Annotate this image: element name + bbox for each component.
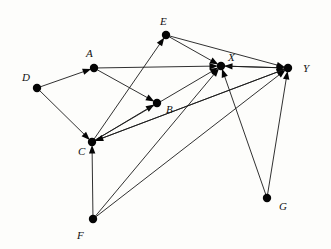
arrowhead-icon [82, 69, 91, 75]
node-label-g: G [279, 201, 287, 212]
graph-edge-f-y [96, 70, 286, 217]
graph-edge-c-e [94, 37, 164, 139]
graph-node-g[interactable] [263, 194, 271, 202]
nodes-layer [33, 31, 292, 223]
graph-node-x[interactable] [217, 62, 225, 70]
edge-line [224, 75, 266, 195]
graph-edge-x-y [225, 64, 285, 70]
node-label-a: A [86, 48, 93, 59]
edge-line [268, 77, 287, 195]
edges-layer [40, 36, 290, 217]
edge-line [40, 71, 85, 87]
edge-line [96, 74, 281, 217]
graph-edge-a-b [97, 70, 154, 102]
edge-line [92, 151, 93, 215]
graph-edge-g-x [222, 69, 266, 195]
edge-line [169, 37, 213, 62]
edge-line [97, 70, 149, 99]
arrowhead-icon [222, 69, 228, 78]
directed-graph-figure: ABCDEFGXY [0, 0, 331, 249]
graph-edge-f-x [95, 68, 219, 216]
graph-edge-f-c [89, 145, 95, 215]
edge-line [95, 73, 215, 216]
graph-node-d[interactable] [33, 84, 41, 92]
node-label-e: E [160, 16, 167, 27]
edge-line [98, 66, 212, 68]
edge-line [225, 66, 279, 68]
edge-line [169, 36, 279, 66]
node-label-y: Y [303, 63, 309, 74]
graph-edge-e-x [169, 37, 218, 65]
graph-node-b[interactable] [153, 99, 161, 107]
graph-edge-y-c [95, 69, 285, 141]
graph-node-a[interactable] [90, 64, 98, 72]
arrowhead-icon [145, 95, 154, 102]
node-label-b: B [166, 104, 173, 115]
node-label-d: D [22, 72, 30, 83]
edge-line [94, 42, 161, 139]
graph-node-e[interactable] [162, 31, 170, 39]
node-label-x: X [228, 52, 235, 63]
graph-node-c[interactable] [88, 138, 96, 146]
arrowhead-icon [157, 37, 164, 46]
node-label-c: C [78, 146, 85, 157]
arrowhead-icon [89, 145, 95, 154]
edge-line [100, 69, 284, 139]
node-label-f: F [77, 230, 84, 241]
graph-edge-d-a [40, 69, 91, 87]
graph-edge-g-y [268, 71, 290, 194]
graph-node-y[interactable] [284, 64, 292, 72]
edge-line [40, 91, 86, 136]
graph-node-f[interactable] [89, 215, 97, 223]
graph-edge-d-c [40, 91, 90, 140]
graph-edge-a-x [98, 63, 218, 69]
